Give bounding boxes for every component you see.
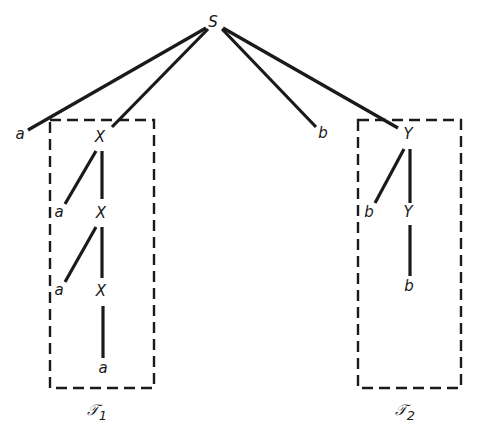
edge-s-b0 xyxy=(222,29,316,127)
node-s: S xyxy=(208,13,218,31)
edge-s-a0 xyxy=(28,28,206,130)
node-a1: a xyxy=(54,203,63,221)
subtree-labels: 𝒯1𝒯2 xyxy=(87,401,415,423)
node-x2: X xyxy=(95,204,107,222)
node-x1: X xyxy=(94,128,106,146)
node-y1: Y xyxy=(403,125,414,143)
node-a0: a xyxy=(15,125,24,143)
edge-y1-b1 xyxy=(375,149,404,203)
node-a2: a xyxy=(54,281,63,299)
node-b1: b xyxy=(364,203,374,221)
edge-x2-a2 xyxy=(65,227,96,282)
node-a3: a xyxy=(98,359,107,377)
tree-edges xyxy=(28,28,410,358)
edge-s-y1 xyxy=(223,28,398,128)
parse-tree-diagram: SaXbYaXaXabYb 𝒯1𝒯2 xyxy=(0,0,477,426)
tree-nodes: SaXbYaXaXabYb xyxy=(15,13,414,377)
node-b0: b xyxy=(318,124,328,142)
node-x3: X xyxy=(95,282,107,300)
node-y2: Y xyxy=(403,203,414,221)
edge-x1-a1 xyxy=(65,151,96,204)
node-b2: b xyxy=(404,277,414,295)
subtree-label-t2: 𝒯2 xyxy=(395,401,415,423)
subtree-label-t1: 𝒯1 xyxy=(87,401,107,423)
edge-s-x1 xyxy=(112,29,208,127)
